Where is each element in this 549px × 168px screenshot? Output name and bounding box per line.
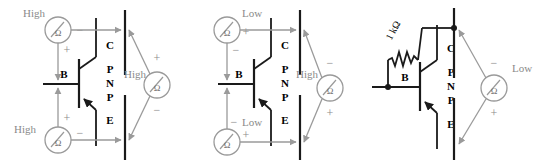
circuit-diagram-svg: B C E P N P Ω High − + Ω High + −: [0, 0, 549, 168]
c1-emitter-label: E: [106, 114, 113, 126]
c2-meter-bottom-reading: Low: [242, 116, 262, 128]
c2-meter-top-symbol: Ω: [224, 28, 231, 38]
c2-meter-bottom-symbol: Ω: [224, 140, 231, 150]
c1-meter-right-reading: High: [124, 68, 147, 80]
c1-meter-top-sign-plus: +: [64, 43, 71, 57]
c2-meter-right-reading: High: [296, 68, 319, 80]
c1-meter-bottom-reading: High: [14, 123, 37, 135]
c3-letter-n: N: [447, 80, 455, 92]
c1-letter-p-top: P: [107, 63, 114, 75]
c1-collector-label: C: [106, 39, 114, 51]
c1-meter-bottom-sign-plus: +: [64, 111, 71, 125]
c2-letter-p-top: P: [282, 63, 289, 75]
c2-meter-bottom-sign-plus: +: [243, 128, 250, 142]
circuit-2: B C E P N P Ω Low + − Ω Low − +: [214, 7, 343, 160]
c2-collector-label: C: [281, 39, 289, 51]
c2-base-label: B: [235, 68, 243, 80]
c3-meter-right-sign-minus: −: [491, 56, 498, 70]
circuit-1: B C E P N P Ω High − + Ω High + −: [14, 7, 170, 160]
c1-meter-right-sign-minus: −: [154, 103, 161, 117]
c3-meter-right[interactable]: Ω Low − +: [459, 30, 532, 144]
c1-meter-top-symbol: Ω: [55, 28, 62, 38]
figure-canvas: B C E P N P Ω High − + Ω High + −: [0, 0, 549, 168]
c2-meter-bottom-sign-minus: −: [231, 115, 238, 129]
c1-base-label: B: [60, 68, 68, 80]
c1-meter-right-symbol: Ω: [154, 83, 161, 93]
c2-letter-n: N: [281, 77, 289, 89]
c1-meter-right[interactable]: Ω High + −: [124, 30, 170, 140]
c1-meter-bottom[interactable]: Ω High + −: [14, 88, 121, 153]
c2-meter-top-sign-plus: +: [243, 25, 250, 39]
c3-meter-right-sign-plus: +: [491, 106, 498, 120]
c2-letter-p-bottom: P: [282, 91, 289, 103]
c2-meter-right-symbol: Ω: [327, 86, 334, 96]
c3-junction-dot-base: [385, 84, 391, 90]
c2-meter-right[interactable]: Ω High − +: [296, 30, 343, 142]
c2-meter-top-reading: Low: [242, 7, 262, 19]
c3-transistor-pnp: B C E P N P: [372, 8, 455, 160]
c1-meter-right-sign-plus: +: [154, 51, 161, 65]
c3-meter-right-symbol: Ω: [491, 86, 498, 96]
c1-meter-bottom-sign-minus: −: [77, 126, 84, 140]
c3-meter-right-reading: Low: [512, 62, 532, 74]
circuit-3: B C E P N P 1 kΩ Ω Low − +: [372, 8, 532, 160]
c2-meter-top-sign-minus: −: [233, 43, 240, 57]
c1-meter-top-reading: High: [23, 7, 46, 19]
c3-junction-dot-collector: [451, 25, 457, 31]
c3-base-label: B: [401, 71, 409, 83]
c2-meter-right-sign-plus: +: [327, 106, 334, 120]
c1-letter-n: N: [106, 77, 114, 89]
c3-resistor-value-label: 1 kΩ: [383, 19, 402, 42]
c1-meter-bottom-symbol: Ω: [55, 138, 62, 148]
c2-meter-right-sign-minus: −: [327, 56, 334, 70]
c2-emitter-label: E: [281, 114, 288, 126]
c1-letter-p-bottom: P: [107, 91, 114, 103]
